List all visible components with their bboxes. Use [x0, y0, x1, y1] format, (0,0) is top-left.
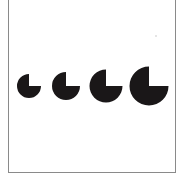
quarter-cut-circle-1	[17, 74, 41, 98]
shapes-group	[17, 67, 169, 106]
quarter-cut-circle-2	[52, 72, 80, 100]
quarter-cut-circle-4	[130, 67, 169, 106]
pie-shapes-figure	[0, 0, 186, 176]
quarter-cut-circle-3	[90, 70, 123, 103]
